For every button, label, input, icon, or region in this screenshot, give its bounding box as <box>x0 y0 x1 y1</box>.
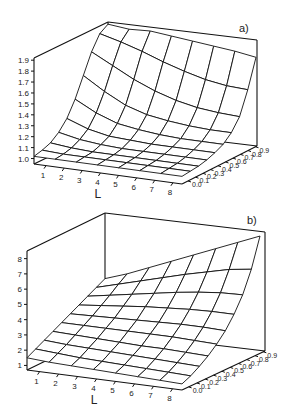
svg-text:1.4: 1.4 <box>18 111 30 120</box>
svg-text:1: 1 <box>34 377 39 386</box>
svg-text:1.2: 1.2 <box>18 133 30 142</box>
svg-text:1.6: 1.6 <box>18 89 30 98</box>
svg-text:4: 4 <box>95 178 100 187</box>
svg-text:1.9: 1.9 <box>18 56 30 65</box>
svg-text:5: 5 <box>18 300 23 309</box>
panel-label: b) <box>247 214 257 226</box>
svg-text:2: 2 <box>53 379 58 388</box>
svg-text:3: 3 <box>77 176 82 185</box>
svg-text:3: 3 <box>72 382 77 391</box>
svg-text:8: 8 <box>168 188 173 197</box>
svg-text:1.7: 1.7 <box>18 78 30 87</box>
surface-plot-a: 1.01.11.21.31.41.51.61.71.81.9 12345678 … <box>0 0 292 205</box>
svg-text:1: 1 <box>41 171 46 180</box>
svg-text:1: 1 <box>18 361 23 370</box>
svg-text:1.3: 1.3 <box>18 122 30 131</box>
svg-text:6: 6 <box>18 285 23 294</box>
svg-text:5: 5 <box>113 180 118 189</box>
x-axis-label: L <box>95 187 102 201</box>
plot-b-canvas: 12345678 12345678 0.00.10.20.30.40.50.60… <box>0 205 292 413</box>
svg-text:7: 7 <box>150 185 155 194</box>
svg-text:2: 2 <box>59 173 64 182</box>
svg-text:8: 8 <box>167 394 172 403</box>
plot-a-canvas: 1.01.11.21.31.41.51.61.71.81.9 12345678 … <box>0 0 292 205</box>
svg-text:1.1: 1.1 <box>18 144 30 153</box>
svg-text:6: 6 <box>129 389 134 398</box>
svg-text:4: 4 <box>18 316 23 325</box>
svg-text:1.8: 1.8 <box>18 67 30 76</box>
svg-text:0.9: 0.9 <box>260 147 270 154</box>
svg-text:5: 5 <box>110 386 115 395</box>
surface-mesh <box>27 236 260 384</box>
surface-mesh <box>34 24 256 176</box>
svg-text:8: 8 <box>18 255 23 264</box>
svg-text:4: 4 <box>91 384 96 393</box>
z-axis-ticks: 12345678 <box>18 255 27 371</box>
svg-text:0.9: 0.9 <box>267 352 277 359</box>
surface-plot-b: 12345678 12345678 0.00.10.20.30.40.50.60… <box>0 205 292 413</box>
panel-label: a) <box>239 22 249 34</box>
svg-text:2: 2 <box>18 346 23 355</box>
svg-text:3: 3 <box>18 331 23 340</box>
svg-text:1.5: 1.5 <box>18 100 30 109</box>
svg-text:7: 7 <box>18 270 23 279</box>
x-axis-label: L <box>91 393 98 407</box>
z-axis-ticks: 1.01.11.21.31.41.51.61.71.81.9 <box>18 56 34 163</box>
svg-text:6: 6 <box>131 183 136 192</box>
svg-text:7: 7 <box>148 391 153 400</box>
svg-text:1.0: 1.0 <box>18 155 30 164</box>
